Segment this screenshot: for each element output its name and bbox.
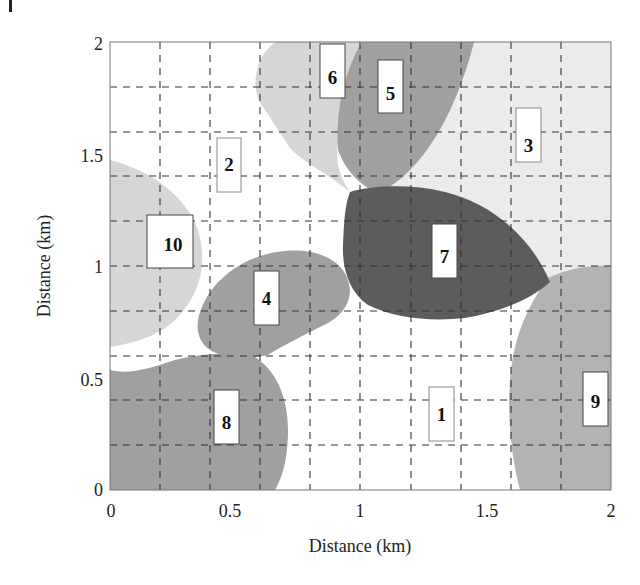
svg-text:0.5: 0.5 [219, 501, 242, 521]
svg-text:2: 2 [224, 154, 234, 175]
svg-text:1: 1 [356, 501, 365, 521]
svg-text:2: 2 [607, 501, 616, 521]
svg-text:5: 5 [386, 83, 396, 104]
svg-text:0.5: 0.5 [81, 370, 104, 390]
svg-text:1.5: 1.5 [81, 146, 104, 166]
x-axis-label: Distance (km) [309, 536, 411, 557]
svg-text:8: 8 [222, 412, 232, 433]
region-label-2: 2 [217, 138, 241, 192]
svg-text:1: 1 [94, 257, 103, 277]
svg-text:0: 0 [94, 480, 103, 500]
region-label-6: 6 [320, 44, 345, 98]
svg-text:3: 3 [524, 135, 534, 156]
svg-text:1.5: 1.5 [476, 501, 499, 521]
region-label-3: 3 [516, 108, 541, 162]
svg-text:6: 6 [328, 67, 338, 88]
region-label-10: 10 [147, 215, 193, 268]
svg-text:4: 4 [262, 288, 272, 309]
region-label-1: 1 [429, 387, 454, 441]
svg-text:10: 10 [164, 234, 183, 255]
y-axis-ticks: 0 0.5 1 1.5 2 [81, 34, 104, 500]
x-axis-ticks: 0 0.5 1 1.5 2 [107, 501, 616, 521]
region-label-5: 5 [378, 60, 403, 113]
svg-text:1: 1 [437, 404, 447, 425]
region-label-9: 9 [583, 372, 608, 426]
svg-text:9: 9 [591, 391, 601, 412]
svg-text:7: 7 [440, 246, 450, 267]
coverage-map-chart: 1 2 3 4 5 6 7 8 [0, 0, 640, 585]
svg-text:2: 2 [94, 34, 103, 54]
region-label-7: 7 [432, 224, 457, 278]
svg-text:0: 0 [107, 501, 116, 521]
region-label-8: 8 [214, 390, 239, 444]
region-label-4: 4 [254, 271, 279, 325]
region-8 [110, 354, 288, 490]
y-axis-label: Distance (km) [34, 215, 55, 317]
